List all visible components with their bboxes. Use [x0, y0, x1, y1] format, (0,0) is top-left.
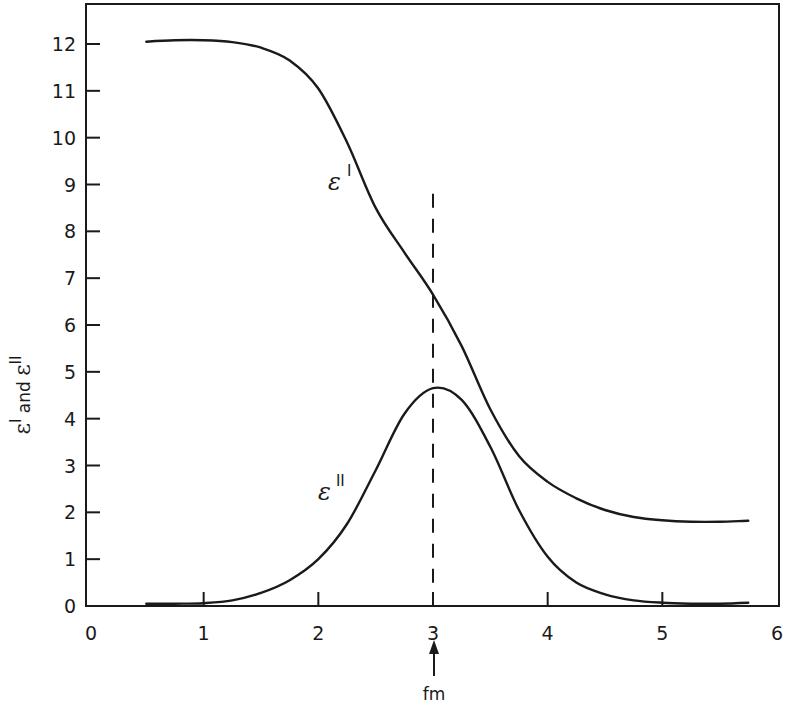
- epsilon-prime-curve: [146, 40, 748, 522]
- x-tick-label: 3: [427, 622, 439, 644]
- y-tick-label: 8: [64, 220, 76, 242]
- x-tick-label: 2: [312, 622, 324, 644]
- y-title-sup2: II: [7, 356, 25, 365]
- svg-text:εI and εII: εI and εII: [7, 356, 35, 435]
- epsilon-double-prime-curve: [146, 388, 748, 604]
- x-tick-label: 5: [656, 622, 668, 644]
- x-tick-label: 1: [198, 622, 210, 644]
- y-title-and: and: [14, 376, 34, 419]
- y-tick-label: 4: [64, 408, 76, 430]
- y-tick-label: 0: [64, 595, 76, 617]
- epsilon-double-prime-label: εII: [318, 472, 345, 506]
- y-tick-label: 10: [52, 127, 76, 149]
- fm-label: fm: [423, 684, 446, 704]
- chart: 0123456789101112 0123456 εI and εII εI ε…: [0, 0, 793, 706]
- y-tick-label: 9: [64, 174, 76, 196]
- x-tick-label: 6: [771, 622, 783, 644]
- epsilon-prime-label: εI: [328, 162, 351, 196]
- y-tick-label: 6: [64, 314, 76, 336]
- y-axis-ticks: 0123456789101112: [52, 33, 100, 617]
- fm-arrow: [429, 640, 439, 676]
- y-title-epsilon1: ε: [10, 423, 35, 434]
- y-title-epsilon2: ε: [10, 364, 35, 375]
- y-tick-label: 11: [52, 80, 76, 102]
- x-tick-label: 0: [85, 622, 97, 644]
- y-tick-label: 12: [52, 33, 76, 55]
- y-tick-label: 7: [64, 267, 76, 289]
- x-tick-label: 4: [542, 622, 554, 644]
- y-tick-label: 5: [64, 361, 76, 383]
- y-tick-label: 3: [64, 455, 76, 477]
- y-tick-label: 2: [64, 501, 76, 523]
- y-tick-label: 1: [64, 548, 76, 570]
- y-axis-title: εI and εII: [7, 356, 35, 435]
